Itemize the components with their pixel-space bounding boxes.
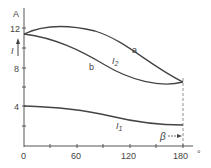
curve-b-label: b xyxy=(89,62,94,72)
i2-label: I2 xyxy=(112,56,119,67)
x-tick-180: 180 xyxy=(173,151,188,161)
i1-label: I1 xyxy=(116,121,123,132)
curve-a xyxy=(24,26,183,82)
y-tick-4: 4 xyxy=(14,102,19,112)
x-unit-label: ° xyxy=(197,149,201,159)
curve-a-label: a xyxy=(132,45,137,55)
x-tick-60: 60 xyxy=(71,151,81,161)
x-tick-120: 120 xyxy=(121,151,136,161)
y-tick-8: 8 xyxy=(14,64,19,74)
y-symbol: I xyxy=(11,46,14,56)
y-tick-12: 12 xyxy=(10,24,20,34)
right-arrow-icon xyxy=(168,134,182,138)
curve-i1 xyxy=(24,106,183,125)
curve-b xyxy=(24,34,183,84)
up-arrow-icon xyxy=(16,38,20,56)
beta-label: β xyxy=(159,131,166,142)
x-tick-0: 0 xyxy=(21,151,26,161)
y-unit-label: A xyxy=(13,9,19,19)
chart: A 12 8 4 I 0 60 120 180 ° a b I2 I1 β xyxy=(0,0,211,168)
